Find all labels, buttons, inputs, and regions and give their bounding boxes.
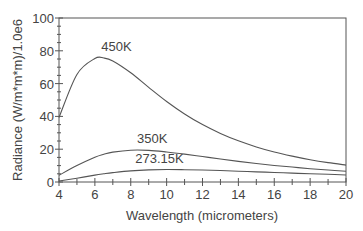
x-tick-label: 16: [267, 187, 281, 202]
series-label: 273.15K: [135, 151, 184, 166]
x-tick-label: 10: [159, 187, 173, 202]
curves: [59, 57, 346, 181]
x-axis-label: Wavelength (micrometers): [126, 208, 278, 223]
series-label: 450K: [101, 39, 132, 54]
chart: 468101214161820020406080100 450K350K273.…: [0, 0, 363, 231]
y-tick-label: 0: [47, 175, 54, 190]
y-tick-label: 20: [40, 142, 54, 157]
series-label: 350K: [137, 131, 168, 146]
y-tick-label: 80: [40, 44, 54, 59]
x-tick-label: 6: [91, 187, 98, 202]
x-tick-label: 18: [303, 187, 317, 202]
curve-450k: [59, 57, 346, 165]
y-axis-label: Radiance (W/m*m*m)/1.0e6: [10, 19, 25, 181]
x-tick-label: 4: [55, 187, 62, 202]
y-tick-label: 60: [40, 77, 54, 92]
y-tick-label: 100: [32, 11, 54, 26]
series-labels: 450K350K273.15K: [101, 39, 184, 166]
x-tick-label: 8: [127, 187, 134, 202]
x-tick-label: 20: [339, 187, 353, 202]
x-tick-label: 12: [195, 187, 209, 202]
y-tick-label: 40: [40, 109, 54, 124]
x-tick-label: 14: [231, 187, 245, 202]
curve-350k: [59, 150, 346, 175]
